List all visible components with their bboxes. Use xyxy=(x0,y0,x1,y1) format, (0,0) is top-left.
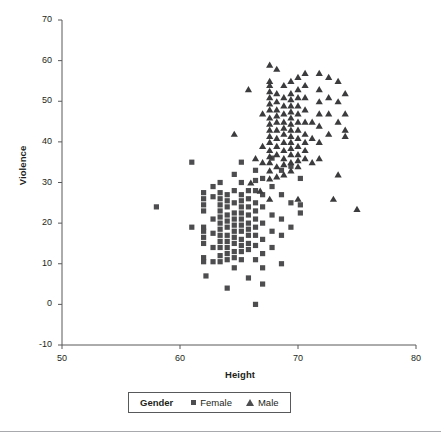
data-point-male xyxy=(301,70,308,76)
data-point-female xyxy=(246,247,251,252)
data-point-female xyxy=(218,253,223,258)
data-point-female xyxy=(269,245,274,250)
data-point-female xyxy=(218,190,223,195)
data-point-female xyxy=(210,231,215,236)
data-point-male xyxy=(342,90,349,96)
data-point-female xyxy=(260,237,265,242)
data-point-male xyxy=(266,133,273,139)
data-point-female xyxy=(260,221,265,226)
data-point-female xyxy=(246,204,251,209)
data-point-male xyxy=(280,155,287,161)
y-tick-label: 60 xyxy=(18,55,52,65)
data-point-male xyxy=(335,118,342,124)
data-point-male xyxy=(342,110,349,116)
data-point-male xyxy=(316,98,323,104)
data-point-female xyxy=(232,188,237,193)
data-point-female xyxy=(260,251,265,256)
data-point-male xyxy=(294,118,301,124)
triangle-marker-icon xyxy=(246,399,254,406)
data-point-male xyxy=(273,173,280,179)
data-point-male xyxy=(335,171,342,177)
data-point-male xyxy=(301,82,308,88)
legend-entry-female[interactable]: Female xyxy=(191,397,232,408)
chart-legend: Gender Female Male xyxy=(128,392,291,413)
data-point-female xyxy=(225,204,230,209)
x-tick-label: 50 xyxy=(42,353,82,363)
data-point-female xyxy=(239,204,244,209)
data-point-male xyxy=(259,143,266,149)
data-point-male xyxy=(287,139,294,145)
data-point-female xyxy=(269,212,274,217)
data-point-female xyxy=(239,216,244,221)
data-point-female xyxy=(239,160,244,165)
data-point-male xyxy=(301,106,308,112)
data-point-male xyxy=(287,159,294,165)
data-point-male xyxy=(294,86,301,92)
data-point-female xyxy=(218,221,223,226)
data-point-male xyxy=(301,131,308,137)
y-tick-label: 20 xyxy=(18,217,52,227)
data-point-male xyxy=(259,159,266,165)
data-point-male xyxy=(309,118,316,124)
data-point-female xyxy=(279,233,284,238)
data-point-male xyxy=(301,147,308,153)
data-point-female xyxy=(218,202,223,207)
data-point-female xyxy=(298,202,303,207)
data-point-female xyxy=(232,249,237,254)
data-point-male xyxy=(316,123,323,129)
data-point-female xyxy=(218,196,223,201)
data-point-male xyxy=(287,108,294,114)
data-point-female xyxy=(246,188,251,193)
data-point-female xyxy=(239,257,244,262)
data-point-female xyxy=(218,208,223,213)
data-point-male xyxy=(273,112,280,118)
data-point-male xyxy=(252,155,259,161)
data-point-male xyxy=(301,139,308,145)
data-point-female xyxy=(218,259,223,264)
data-point-female xyxy=(246,233,251,238)
data-point-female xyxy=(201,196,206,201)
data-point-male xyxy=(273,135,280,141)
data-point-male xyxy=(294,135,301,141)
data-point-female xyxy=(201,235,206,240)
data-point-female xyxy=(210,216,215,221)
data-point-male xyxy=(325,74,332,80)
data-point-female xyxy=(288,225,293,230)
data-point-female xyxy=(232,223,237,228)
data-point-female xyxy=(239,192,244,197)
data-point-female xyxy=(189,225,194,230)
tick-marks xyxy=(58,20,416,349)
data-point-male xyxy=(325,94,332,100)
data-point-female xyxy=(225,225,230,230)
data-point-female xyxy=(246,221,251,226)
y-tick-label: 0 xyxy=(18,298,52,308)
data-point-female xyxy=(253,243,258,248)
data-point-female xyxy=(239,198,244,203)
data-point-male xyxy=(273,127,280,133)
data-point-male xyxy=(266,120,273,126)
data-point-female xyxy=(246,212,251,217)
data-point-female xyxy=(279,261,284,266)
data-point-male xyxy=(266,94,273,100)
data-point-male xyxy=(294,163,301,169)
data-point-male xyxy=(287,114,294,120)
y-tick-label: 40 xyxy=(18,136,52,146)
data-point-female xyxy=(279,216,284,221)
data-point-female xyxy=(232,200,237,205)
y-tick-label: 50 xyxy=(18,95,52,105)
data-point-female xyxy=(239,229,244,234)
data-point-male xyxy=(266,175,273,181)
data-point-male xyxy=(316,86,323,92)
data-point-male xyxy=(266,127,273,133)
data-point-male xyxy=(266,100,273,106)
data-point-male xyxy=(280,118,287,124)
data-point-female xyxy=(232,265,237,270)
data-point-male xyxy=(325,131,332,137)
y-tick-label: 70 xyxy=(18,14,52,24)
data-point-female xyxy=(201,229,206,234)
footer-rule xyxy=(0,431,441,432)
data-point-male xyxy=(287,133,294,139)
data-point-female xyxy=(210,259,215,264)
legend-entry-male[interactable]: Male xyxy=(246,397,279,408)
data-point-male xyxy=(273,143,280,149)
